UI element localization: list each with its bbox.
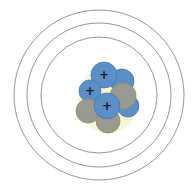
plus-charge-icon: +	[85, 84, 95, 98]
proton: +	[94, 93, 120, 119]
plus-charge-icon: +	[102, 99, 112, 113]
atom-diagram: +++	[0, 0, 191, 194]
plus-charge-icon: +	[99, 68, 109, 82]
nucleus: +++	[76, 62, 139, 134]
